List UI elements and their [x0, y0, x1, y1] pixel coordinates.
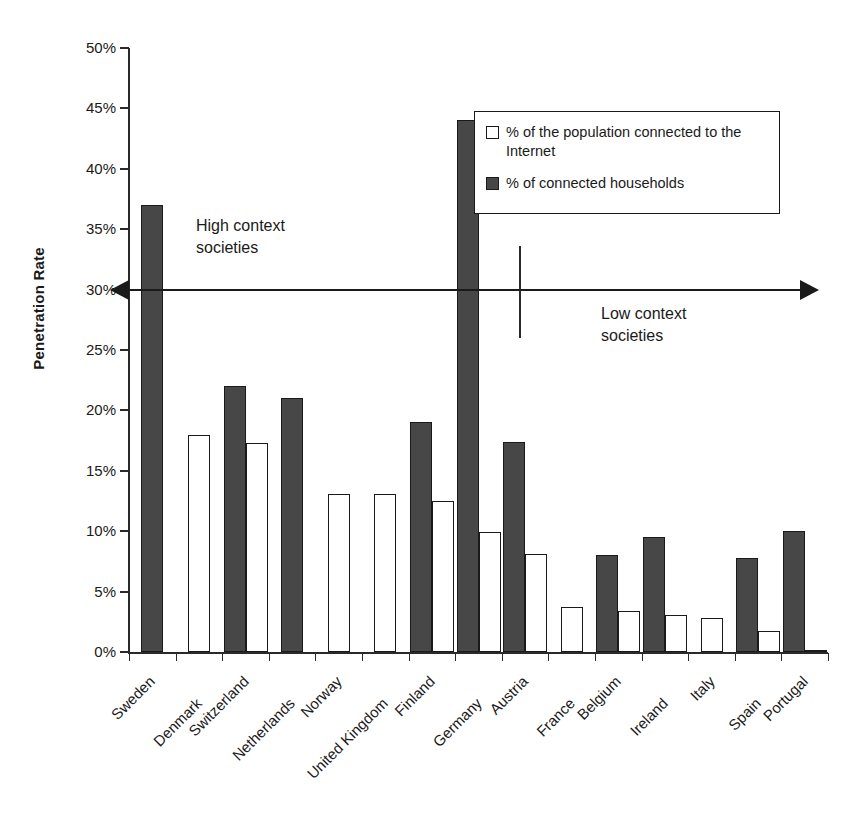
- bar-portugal-households: [783, 531, 805, 652]
- annotation-high-context: High context societies: [196, 215, 285, 259]
- y-axis-tick-label: 30%: [60, 281, 116, 298]
- x-axis-tick: [548, 653, 549, 661]
- x-axis-label-portugal: Portugal: [657, 672, 810, 821]
- annotation-low-context-line1: Low context: [601, 303, 686, 325]
- x-axis-tick: [129, 653, 130, 661]
- x-axis-tick: [455, 653, 456, 661]
- y-axis-tick-label: 15%: [60, 462, 116, 479]
- chart-canvas: Penetration Rate 50%45%40%35%30%25%20%15…: [0, 0, 845, 821]
- x-axis-line: [128, 652, 828, 654]
- bar-netherlands-households: [281, 398, 303, 652]
- bar-switzerland-households: [224, 386, 246, 652]
- context-axis-line: [122, 289, 808, 291]
- legend-label: % of the population connected to the Int…: [506, 123, 770, 161]
- bar-italy-population: [701, 618, 723, 652]
- annotation-high-context-line2: societies: [196, 237, 285, 259]
- bar-spain-population: [758, 631, 780, 652]
- y-axis-tick-label: 40%: [60, 160, 116, 177]
- bar-finland-households: [410, 422, 432, 652]
- bar-austria-households: [503, 442, 525, 652]
- x-axis-tick: [502, 653, 503, 661]
- y-axis-tick-label: 10%: [60, 522, 116, 539]
- y-axis-tick-label: 0%: [60, 643, 116, 660]
- x-axis-tick: [642, 653, 643, 661]
- bar-sweden-households: [141, 205, 163, 652]
- x-axis-tick: [688, 653, 689, 661]
- annotation-high-context-line1: High context: [196, 215, 285, 237]
- bar-finland-population: [432, 501, 454, 652]
- x-axis-tick: [735, 653, 736, 661]
- annotation-low-context-line2: societies: [601, 325, 686, 347]
- bar-belgium-households: [596, 555, 618, 652]
- bar-belgium-population: [618, 611, 640, 652]
- legend-item-2: % of connected households: [486, 174, 770, 193]
- bar-ireland-households: [643, 537, 665, 652]
- y-axis-tick-label: 20%: [60, 401, 116, 418]
- y-axis-tick-label: 50%: [60, 39, 116, 56]
- y-axis-tick-label: 25%: [60, 341, 116, 358]
- x-axis-tick: [269, 653, 270, 661]
- bar-united-kingdom-population: [374, 494, 396, 652]
- bar-portugal-population: [805, 650, 827, 652]
- y-axis-tick-label: 45%: [60, 99, 116, 116]
- x-axis-tick: [362, 653, 363, 661]
- y-axis-tick-label: 5%: [60, 583, 116, 600]
- legend-swatch-light: [486, 126, 499, 139]
- arrow-left-icon: [110, 280, 129, 300]
- bar-france-population: [561, 607, 583, 652]
- legend-swatch-dark: [486, 177, 499, 190]
- y-axis-tick-label: 35%: [60, 220, 116, 237]
- bar-spain-households: [736, 558, 758, 652]
- chart-legend: % of the population connected to the Int…: [474, 111, 780, 214]
- arrow-right-icon: [800, 280, 819, 300]
- bar-denmark-population: [188, 435, 210, 652]
- annotation-low-context: Low context societies: [601, 303, 686, 347]
- bar-norway-population: [328, 494, 350, 652]
- bar-germany-population: [479, 532, 501, 652]
- bar-austria-population: [525, 554, 547, 652]
- x-axis-tick: [222, 653, 223, 661]
- x-axis-tick: [409, 653, 410, 661]
- y-axis-title: Penetration Rate: [30, 219, 47, 399]
- x-axis-tick: [315, 653, 316, 661]
- legend-label: % of connected households: [506, 174, 684, 193]
- bar-ireland-population: [665, 615, 687, 652]
- x-axis-tick: [176, 653, 177, 661]
- bar-switzerland-population: [246, 443, 268, 652]
- x-axis-tick: [781, 653, 782, 661]
- x-axis-tick: [595, 653, 596, 661]
- legend-item-1: % of the population connected to the Int…: [486, 123, 770, 161]
- x-axis-tick: [828, 653, 829, 661]
- context-divider-line: [519, 246, 521, 338]
